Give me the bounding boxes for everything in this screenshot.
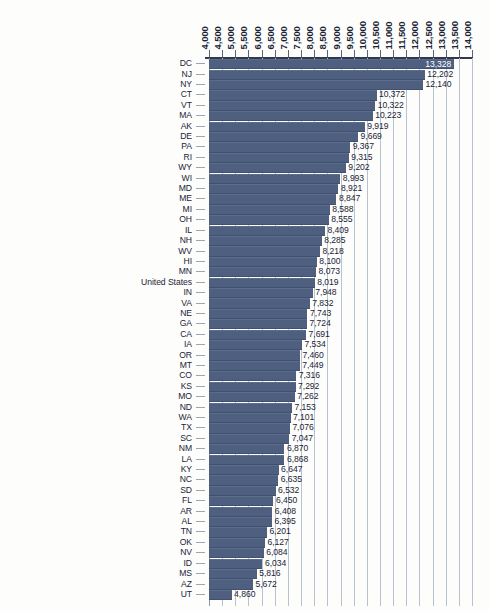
bar-row[interactable]: 7,832VA (0, 297, 489, 307)
bar-value-label: 10,223 (373, 111, 402, 120)
bar-row[interactable]: 7,743NE (0, 308, 489, 318)
bar-row[interactable]: 7,724GA (0, 318, 489, 328)
bar-row-label: AL (0, 517, 192, 526)
bar-row-label: VA (0, 298, 192, 307)
bar-row-leader-line (196, 563, 205, 564)
bar-row[interactable]: DC13,328 (0, 58, 489, 68)
bar-row-label: MS (0, 569, 192, 578)
bar-row[interactable]: 8,073MN (0, 266, 489, 276)
bar-row-leader-line (196, 490, 205, 491)
bar-value-label: 4,860 (232, 590, 256, 599)
bar-row-label: CT (0, 90, 192, 99)
bar-value-label: 7,948 (313, 288, 337, 297)
bar-row-label: AR (0, 506, 192, 515)
bar-row[interactable]: 9,367PA (0, 141, 489, 151)
bar-value-label: 9,669 (358, 132, 382, 141)
bar-row[interactable]: 5,816MS (0, 568, 489, 578)
x-axis-tick-label: 7,500 (292, 26, 302, 49)
bar-row[interactable]: 9,202WY (0, 162, 489, 172)
bar-row[interactable]: 7,292KS (0, 381, 489, 391)
bar-row-label: United States (0, 277, 192, 286)
bar-row[interactable]: 9,919AK (0, 120, 489, 130)
bar-row[interactable]: 7,316CO (0, 370, 489, 380)
bar-row-leader-line (196, 105, 205, 106)
bar-row-leader-line (196, 292, 205, 293)
bar-row-label: RI (0, 153, 192, 162)
bar-row-label: AK (0, 121, 192, 130)
bar-row[interactable]: 6,408AR (0, 505, 489, 515)
bar-row-leader-line (196, 126, 205, 127)
bar-row[interactable]: 7,047SC (0, 433, 489, 443)
bar-row-label: FL (0, 496, 192, 505)
bar-row[interactable]: 8,409IL (0, 225, 489, 235)
bar[interactable] (209, 590, 232, 600)
bar-value-label: 6,870 (284, 444, 308, 453)
bar-row[interactable]: 5,672AZ (0, 578, 489, 588)
bar-row-leader-line (196, 417, 205, 418)
bar-value-label: 9,919 (365, 121, 389, 130)
bar-row[interactable]: 7,076TX (0, 422, 489, 432)
bar-value-label: 6,635 (278, 475, 302, 484)
bar-row[interactable]: 7,262MO (0, 391, 489, 401)
bar-row[interactable]: 8,218WV (0, 245, 489, 255)
bar-row[interactable]: 6,395AL (0, 516, 489, 526)
bar-row[interactable]: 12,140NY (0, 79, 489, 89)
bar-row[interactable]: 8,100HI (0, 256, 489, 266)
bar-row[interactable]: 8,993WI (0, 172, 489, 182)
bar-value-label: 10,322 (375, 101, 404, 110)
bar-row[interactable]: 10,372CT (0, 89, 489, 99)
bar-row-leader-line (196, 303, 205, 304)
bar-row[interactable]: 7,460OR (0, 349, 489, 359)
bar-row[interactable]: 6,034ID (0, 558, 489, 568)
bar-row-leader-line (196, 542, 205, 543)
bar-row[interactable]: 9,315RI (0, 152, 489, 162)
bar-row[interactable]: 8,555OH (0, 214, 489, 224)
x-axis-tick-label: 9,500 (344, 26, 354, 49)
bar-row[interactable]: 6,127OK (0, 537, 489, 547)
bar-row-leader-line (196, 261, 205, 262)
bar-value-label: 8,847 (336, 194, 360, 203)
bar-row[interactable]: 7,691CA (0, 329, 489, 339)
bar-row[interactable]: 10,322VT (0, 100, 489, 110)
bar-row-leader-line (196, 209, 205, 210)
bar-row-leader-line (196, 136, 205, 137)
bar-row[interactable]: 7,948IN (0, 287, 489, 297)
bar-row[interactable]: 6,201TN (0, 526, 489, 536)
bar-value-label: 7,153 (292, 402, 316, 411)
bar-row[interactable]: 8,285NH (0, 235, 489, 245)
bar-value-label: 8,019 (315, 277, 339, 286)
bar-value-label: 7,316 (296, 371, 320, 380)
bar-row-leader-line (196, 365, 205, 366)
bar-value-label: 7,076 (290, 423, 314, 432)
bar-row[interactable]: 12,202NJ (0, 68, 489, 78)
bar-row-label: LA (0, 454, 192, 463)
bar-row[interactable]: 7,101WA (0, 412, 489, 422)
bar-row[interactable]: 8,019United States (0, 277, 489, 287)
bar-value-label: 7,449 (300, 361, 324, 370)
bar-row[interactable]: 8,588MI (0, 204, 489, 214)
bar-row[interactable]: 6,647KY (0, 464, 489, 474)
bar-row-leader-line (196, 500, 205, 501)
bar-row[interactable]: 8,847ME (0, 193, 489, 203)
bar-row[interactable]: 4,860UT (0, 589, 489, 599)
bar-row[interactable]: 6,084NV (0, 547, 489, 557)
bar-row[interactable]: 7,153ND (0, 401, 489, 411)
bar-row[interactable]: 6,635NC (0, 474, 489, 484)
bar-row-label: KY (0, 465, 192, 474)
bar-row-leader-line (196, 63, 205, 64)
bar-row[interactable]: 9,669DE (0, 131, 489, 141)
bar-row[interactable]: 6,870NM (0, 443, 489, 453)
bar-row[interactable]: 7,534IA (0, 339, 489, 349)
bar-row-leader-line (196, 396, 205, 397)
bar-row[interactable]: 7,449MT (0, 360, 489, 370)
bar-row[interactable]: 6,868LA (0, 453, 489, 463)
bar-row[interactable]: 10,223MA (0, 110, 489, 120)
bar-row[interactable]: 8,921MD (0, 183, 489, 193)
bar-row[interactable]: 6,450FL (0, 495, 489, 505)
x-axis-tick-label: 5,000 (226, 26, 236, 49)
bar-row-leader-line (196, 167, 205, 168)
bar-row[interactable]: 6,532SD (0, 485, 489, 495)
bar-row-leader-line (196, 323, 205, 324)
bar-row-leader-line (196, 271, 205, 272)
bar-row-label: KS (0, 382, 192, 391)
